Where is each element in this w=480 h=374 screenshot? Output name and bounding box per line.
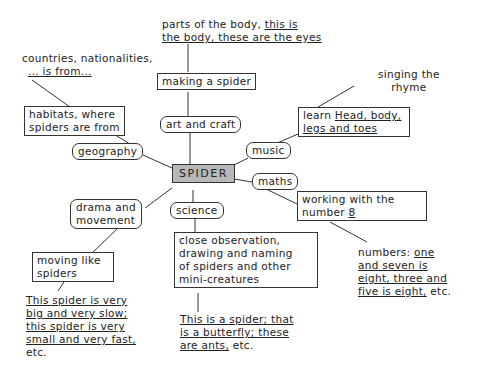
music-language-line: rhyme: [378, 81, 440, 94]
science-language-line: is a butterfly; these: [180, 326, 294, 339]
science-activity-line: drawing and naming: [179, 247, 313, 260]
art-activity-label: making a spider: [162, 75, 251, 87]
maths-activity-line: 8: [348, 206, 355, 218]
topic-music: music: [246, 142, 291, 159]
drama-topic-line: drama and: [76, 201, 136, 214]
topic-science: science: [170, 202, 224, 219]
maths-language-line: five is eight,: [358, 285, 427, 297]
geography-activity-box: habitats, where spiders are from: [24, 106, 125, 136]
maths-activity-line: working with the: [302, 193, 422, 206]
music-activity-line: learn: [303, 109, 335, 121]
geography-topic-label: geography: [78, 145, 137, 157]
maths-language-line: and seven is: [358, 259, 451, 272]
drama-language-line: this spider is very: [26, 320, 136, 333]
drama-language-line: This spider is very: [26, 294, 136, 307]
art-language-line: parts of the body,: [162, 18, 265, 30]
music-activity-box: learn Head, body, legs and toes: [298, 107, 410, 137]
drama-activity-line: moving like: [37, 254, 109, 267]
drama-language-note: This spider is very big and very slow; t…: [26, 294, 136, 359]
science-activity-box: close observation, drawing and naming of…: [174, 232, 318, 288]
geography-language-line: countries, nationalities,: [22, 52, 153, 65]
music-language-line: singing the: [378, 68, 440, 81]
topic-geography: geography: [72, 143, 143, 160]
drama-activity-box: moving like spiders: [32, 252, 114, 282]
science-activity-line: of spiders and other: [179, 260, 313, 273]
science-language-line: This is a spider; that: [180, 313, 294, 326]
music-topic-label: music: [252, 144, 285, 156]
drama-topic-line: movement: [76, 214, 136, 227]
art-language-note: parts of the body, this is the body, the…: [162, 18, 322, 44]
drama-language-line: etc.: [26, 346, 136, 359]
topic-art-and-craft: art and craft: [160, 116, 241, 133]
science-topic-label: science: [176, 204, 218, 216]
maths-language-line: eight, three and: [358, 272, 451, 285]
drama-activity-line: spiders: [37, 267, 109, 280]
science-language-line: etc.: [229, 339, 254, 351]
drama-language-line: big and very slow;: [26, 307, 136, 320]
art-language-line: the body, these are the eyes: [162, 31, 322, 44]
music-language-note: singing the rhyme: [378, 68, 440, 94]
art-topic-label: art and craft: [166, 118, 235, 130]
geography-activity-line: habitats, where: [29, 108, 120, 121]
maths-topic-label: maths: [258, 175, 292, 187]
science-activity-line: mini-creatures: [179, 273, 313, 286]
science-language-note: This is a spider; that is a butterfly; t…: [180, 313, 294, 352]
maths-language-line: one: [414, 246, 434, 258]
center-label: SPIDER: [179, 167, 228, 180]
science-activity-line: close observation,: [179, 234, 313, 247]
geography-activity-line: spiders are from: [29, 121, 120, 134]
center-node-spider: SPIDER: [172, 164, 235, 183]
maths-activity-box: working with the number 8: [297, 191, 427, 221]
topic-drama-and-movement: drama and movement: [70, 199, 142, 229]
science-language-line: are ants,: [180, 339, 229, 351]
art-activity-box: making a spider: [157, 73, 256, 90]
geography-language-note: countries, nationalities, ... is from...: [22, 52, 153, 78]
drama-language-line: small and very fast,: [26, 333, 136, 346]
music-activity-line: Head, body,: [335, 109, 402, 121]
maths-language-note: numbers: one and seven is eight, three a…: [358, 246, 451, 298]
geography-language-line: ... is from...: [22, 65, 153, 78]
maths-language-line: numbers:: [358, 246, 414, 258]
maths-activity-line: number: [302, 206, 348, 218]
maths-language-line: etc.: [427, 285, 452, 297]
art-language-line: this is: [265, 18, 298, 30]
music-activity-line: legs and toes: [303, 122, 405, 135]
topic-maths: maths: [252, 173, 298, 190]
